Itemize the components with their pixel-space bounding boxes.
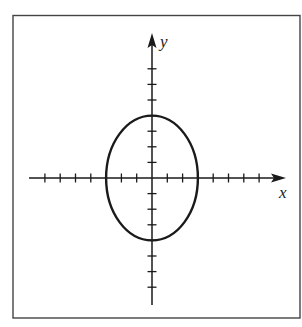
y-axis-label: y: [158, 32, 168, 51]
figure-frame: [13, 16, 300, 319]
ellipse-figure: y x: [0, 0, 302, 327]
x-axis-label: x: [278, 183, 287, 202]
